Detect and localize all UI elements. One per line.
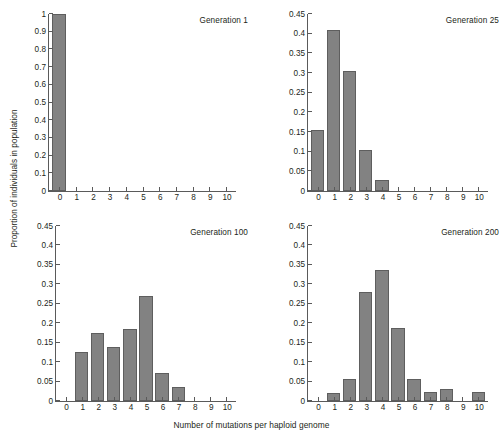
- bar: [139, 296, 152, 401]
- y-axis-tick-label: 0.3: [294, 68, 305, 79]
- x-axis-tick-label: 4: [125, 402, 137, 413]
- x-axis-tick: 7: [176, 187, 177, 191]
- y-axis-tick: 0.2: [308, 111, 312, 112]
- x-axis-tick-label: 1: [77, 402, 89, 413]
- y-axis-tick-label: 0.2: [42, 318, 53, 329]
- y-axis-tick: 0.25: [308, 303, 312, 304]
- y-axis-tick-label: 0.7: [35, 62, 46, 73]
- y-axis-tick-label: 0.3: [35, 132, 46, 143]
- y-axis-tick-label: 0.4: [35, 115, 46, 126]
- y-axis-tick-label: 0.35: [37, 259, 53, 270]
- y-axis-tick-label: 0: [41, 186, 46, 197]
- x-axis-tick: 7: [430, 187, 431, 191]
- y-axis-tick: 0.35: [56, 264, 60, 265]
- x-axis-tick-label: 5: [141, 402, 153, 413]
- x-axis-tick-label: 9: [457, 402, 469, 413]
- bar: [107, 347, 120, 401]
- y-axis-tick: 0: [49, 190, 53, 191]
- x-axis-tick-label: 6: [409, 402, 421, 413]
- y-axis-tick: 0.4: [308, 33, 312, 34]
- bar-series: [308, 226, 488, 401]
- y-axis-tick-label: 0.45: [289, 221, 305, 232]
- bar-series: [308, 14, 488, 191]
- y-axis-tick-label: 0.2: [294, 107, 305, 118]
- x-axis-tick: 1: [334, 187, 335, 191]
- y-axis-tick-label: 0.5: [35, 97, 46, 108]
- x-axis-tick: 9: [209, 187, 210, 191]
- bar: [123, 329, 136, 401]
- x-axis-tick-label: 0: [61, 402, 73, 413]
- x-axis-tick-label: 10: [473, 192, 485, 203]
- y-axis-tick-label: 0.1: [42, 357, 53, 368]
- y-axis-tick-label: 1: [41, 9, 46, 20]
- bar: [375, 270, 388, 401]
- plot-area-generation-200: 00.050.10.150.20.250.30.350.40.450123456…: [307, 226, 488, 402]
- y-axis-tick-label: 0.1: [35, 168, 46, 179]
- mutation-distribution-figure: Proportion of individuals in population …: [0, 0, 503, 440]
- y-axis-tick-label: 0.15: [289, 127, 305, 138]
- x-axis-tick-label: 3: [104, 192, 116, 203]
- x-axis-tick-label: 10: [473, 402, 485, 413]
- x-axis-tick-label: 1: [329, 192, 341, 203]
- y-axis-tick-label: 0.9: [35, 26, 46, 37]
- x-axis-tick: 6: [414, 187, 415, 191]
- x-axis-tick-label: 5: [393, 192, 405, 203]
- x-axis-tick: 6: [414, 397, 415, 401]
- x-axis-tick-label: 4: [121, 192, 133, 203]
- x-axis-tick: 2: [98, 397, 99, 401]
- y-axis-tick: 0.45: [308, 13, 312, 14]
- y-axis-tick-label: 0.4: [42, 240, 53, 251]
- y-axis-tick-label: 0.8: [35, 44, 46, 55]
- y-axis-tick: 0.1: [308, 361, 312, 362]
- x-axis-tick: 5: [146, 397, 147, 401]
- x-axis-tick-label: 8: [441, 192, 453, 203]
- x-axis-tick: 2: [92, 187, 93, 191]
- x-axis-tick: 8: [194, 397, 195, 401]
- x-axis-tick-label: 8: [441, 402, 453, 413]
- panel-generation-100: Generation 100 00.050.10.150.20.250.30.3…: [0, 212, 252, 420]
- x-axis-tick-label: 3: [109, 402, 121, 413]
- y-axis-tick: 0.7: [49, 66, 53, 67]
- x-axis-tick: 2: [350, 187, 351, 191]
- x-axis-tick: 1: [82, 397, 83, 401]
- y-axis-tick-label: 0.35: [289, 259, 305, 270]
- y-axis-tick: 0.05: [308, 381, 312, 382]
- x-axis-tick-label: 2: [87, 192, 99, 203]
- y-axis-tick: 0: [56, 400, 60, 401]
- x-axis-tick-label: 5: [393, 402, 405, 413]
- x-axis-tick-label: 1: [329, 402, 341, 413]
- x-axis-tick: 6: [162, 397, 163, 401]
- y-axis-tick: 0.3: [56, 283, 60, 284]
- y-axis-tick: 0.05: [56, 381, 60, 382]
- x-axis-tick-label: 9: [457, 192, 469, 203]
- x-axis-tick: 3: [114, 397, 115, 401]
- y-axis-tick: 0.4: [308, 244, 312, 245]
- x-axis-tick: 9: [462, 397, 463, 401]
- y-axis-tick-label: 0.4: [294, 28, 305, 39]
- y-axis-tick: 0.5: [49, 102, 53, 103]
- x-axis-tick: 3: [366, 397, 367, 401]
- x-axis-tick: 2: [350, 397, 351, 401]
- x-axis-tick: 4: [382, 397, 383, 401]
- x-axis-tick-label: 3: [361, 402, 373, 413]
- bar: [359, 292, 372, 401]
- panel-generation-200: Generation 200 00.050.10.150.20.250.30.3…: [252, 212, 503, 420]
- y-axis-tick-label: 0.2: [35, 150, 46, 161]
- x-axis-tick: 6: [159, 187, 160, 191]
- y-axis-tick: 0.15: [56, 342, 60, 343]
- panel-generation-25: Generation 25 00.050.10.150.20.250.30.35…: [252, 0, 503, 212]
- x-axis-tick-label: 9: [204, 192, 216, 203]
- y-axis-tick: 0.2: [308, 322, 312, 323]
- x-axis-tick: 0: [318, 187, 319, 191]
- x-axis-tick: 10: [226, 187, 227, 191]
- y-axis-tick: 0.3: [49, 137, 53, 138]
- bar: [91, 333, 104, 401]
- x-axis-tick-label: 9: [205, 402, 217, 413]
- y-axis-tick-label: 0.25: [289, 87, 305, 98]
- x-axis-tick: 0: [59, 187, 60, 191]
- x-axis-tick: 8: [446, 187, 447, 191]
- x-axis-tick-label: 8: [189, 402, 201, 413]
- plot-area-generation-25: 00.050.10.150.20.250.30.350.40.450123456…: [307, 14, 488, 192]
- x-axis-tick: 9: [462, 187, 463, 191]
- y-axis-tick-label: 0.2: [294, 318, 305, 329]
